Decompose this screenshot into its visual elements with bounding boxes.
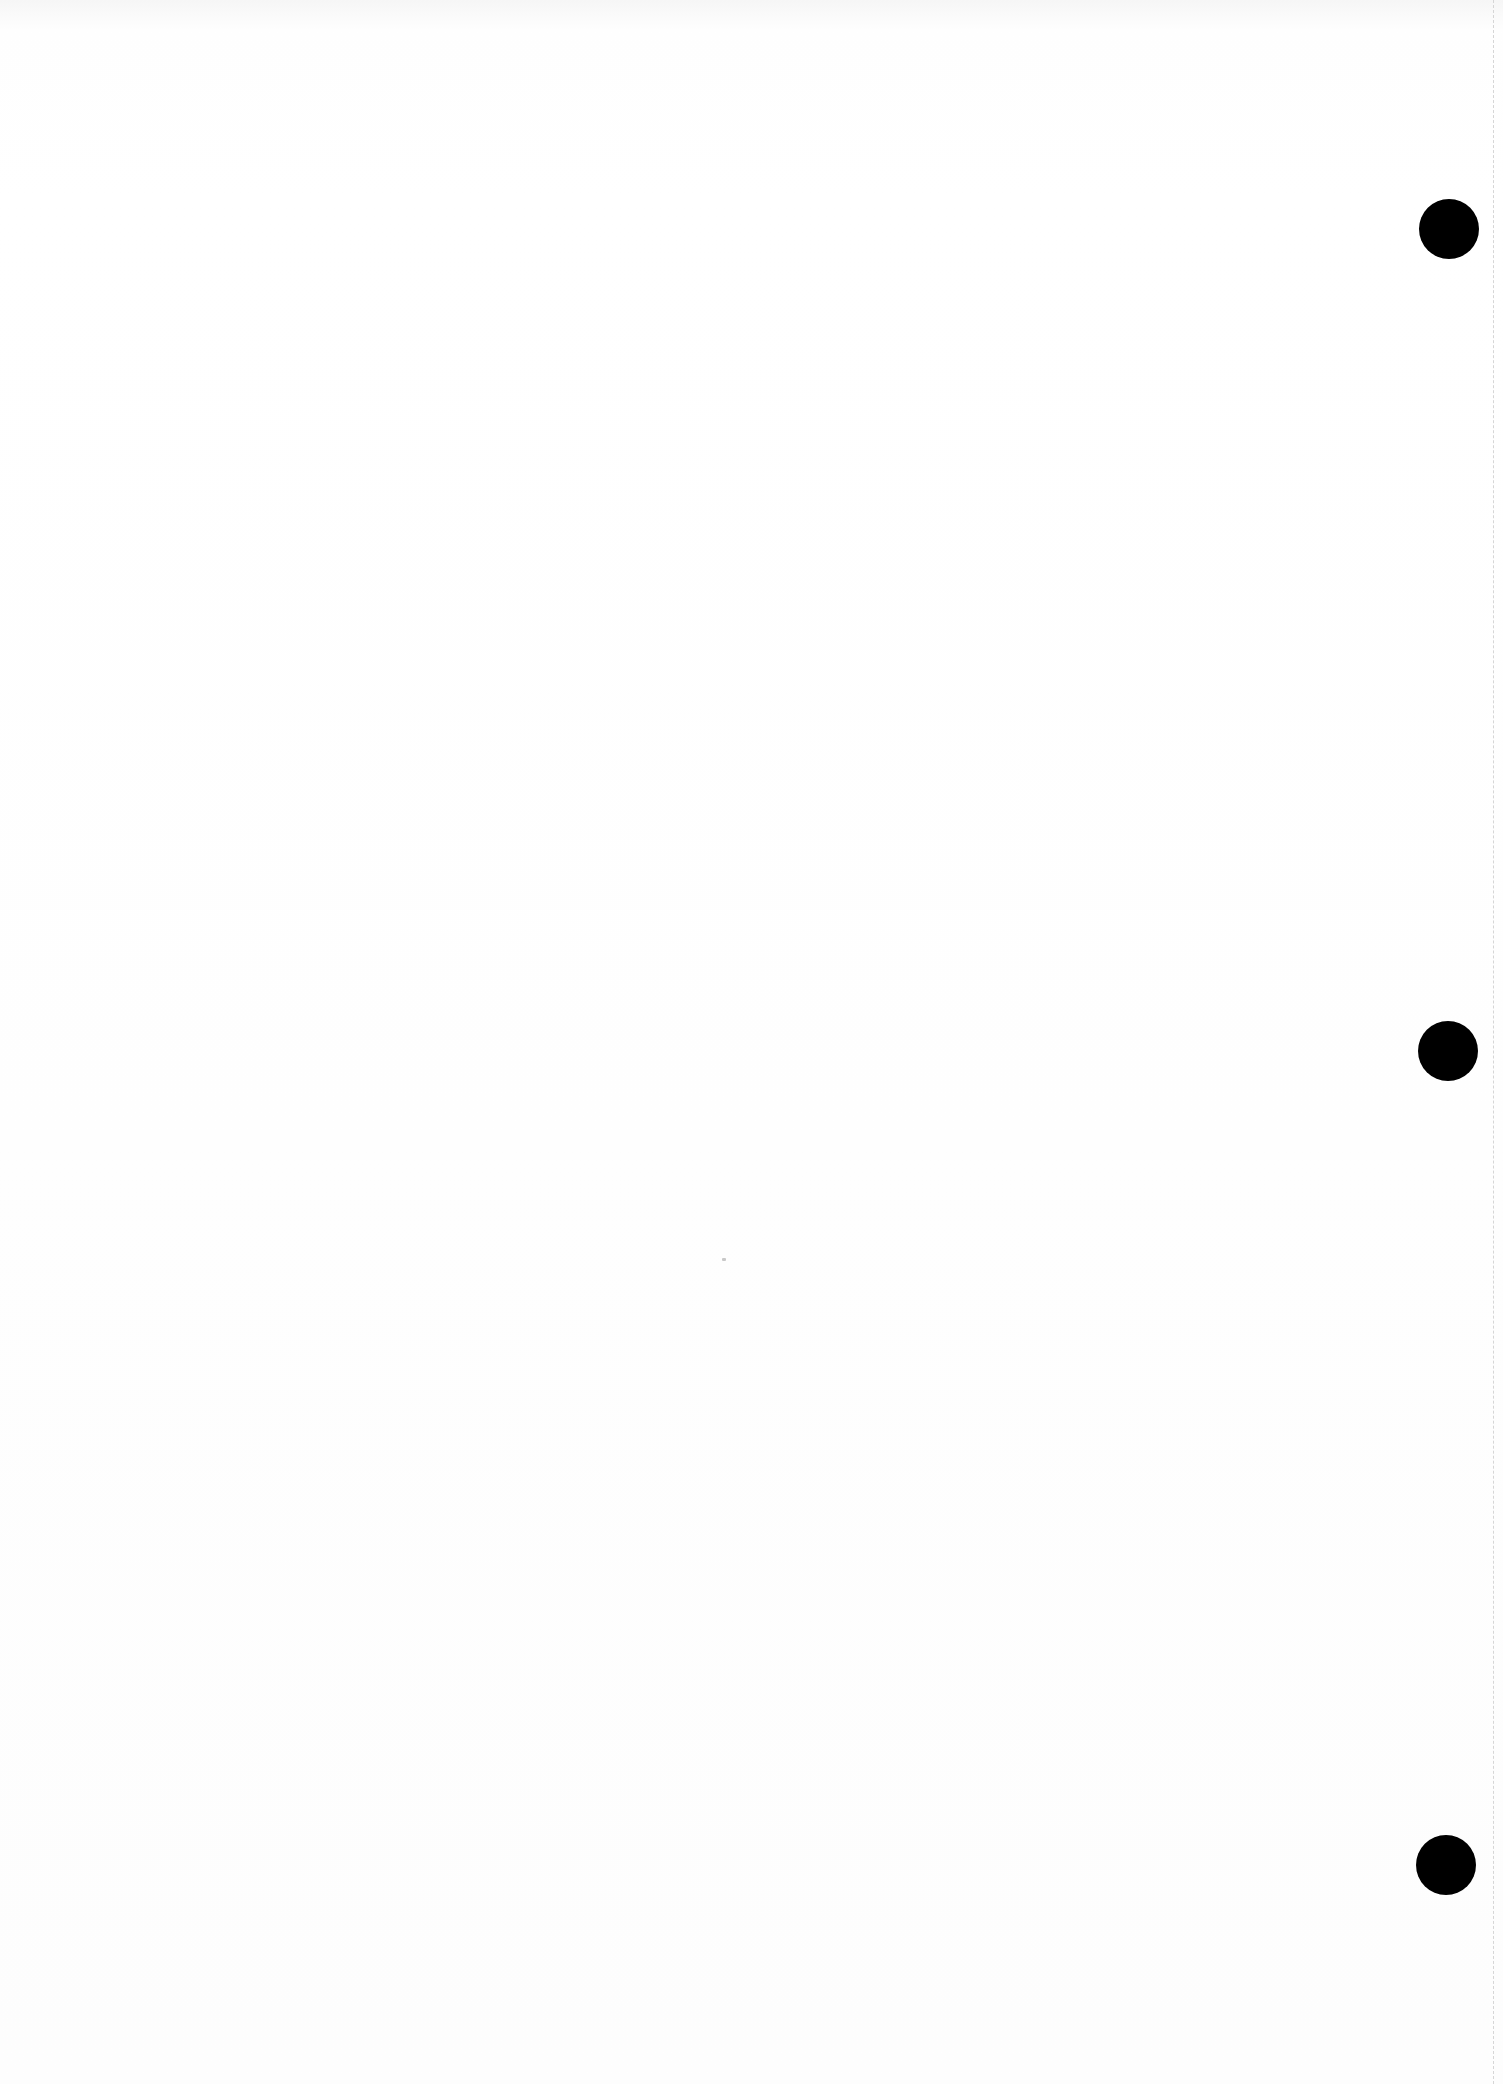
dust-speck [722, 1258, 726, 1261]
blank-page [0, 0, 1503, 2084]
punch-hole-top [1419, 199, 1479, 259]
punch-hole-bottom [1416, 1835, 1476, 1895]
punch-hole-middle [1418, 1021, 1478, 1081]
page-edge-line [1493, 0, 1494, 2084]
